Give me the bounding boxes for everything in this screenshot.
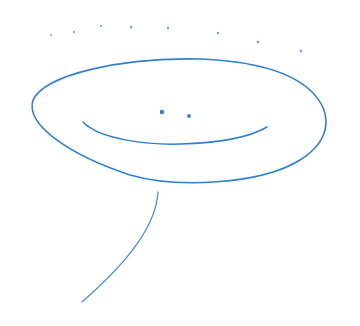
smiley-sketch xyxy=(0,0,360,326)
face-ellipse xyxy=(32,59,326,183)
dots-row xyxy=(50,25,302,52)
right-eye xyxy=(187,114,191,118)
sketch-canvas xyxy=(0,0,360,326)
mouth-smile xyxy=(83,122,267,144)
tail-line xyxy=(82,192,158,302)
left-eye xyxy=(160,110,164,114)
